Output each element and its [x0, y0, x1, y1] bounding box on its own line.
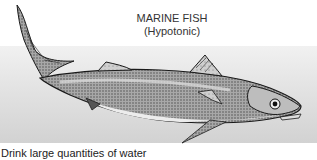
- marine-fish-illustration: [0, 0, 317, 160]
- figure-caption: Drink large quantities of water: [1, 147, 147, 159]
- dorsal-fin-front: [98, 62, 132, 71]
- pelvic-fin: [182, 120, 226, 143]
- tail-fin-icon: [17, 5, 74, 80]
